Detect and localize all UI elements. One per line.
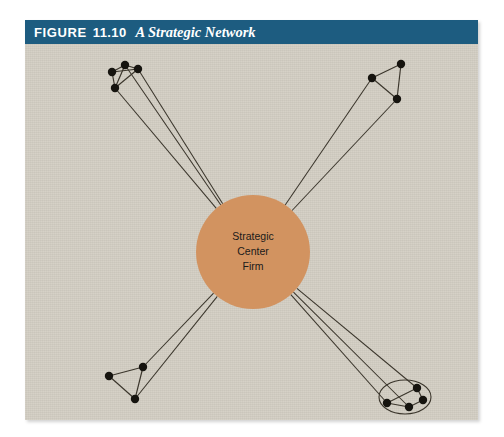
spoke-line (115, 88, 216, 208)
cluster-top-right (368, 60, 405, 103)
cluster-edge (372, 64, 401, 78)
network-node (368, 74, 376, 82)
network-node (139, 363, 147, 371)
spoke-line (125, 65, 221, 205)
cluster-edge (109, 367, 143, 376)
figure-label: FIGURE (34, 25, 87, 40)
cluster-edge (372, 78, 397, 99)
cluster-bottom-right (379, 380, 431, 414)
network-node (131, 395, 139, 403)
figure-number: 11.10 (93, 25, 127, 40)
spoke-line (291, 295, 387, 403)
spoke-line (293, 292, 409, 407)
network-node (105, 372, 113, 380)
network-node (111, 84, 119, 92)
network-diagram: StrategicCenterFirm (25, 44, 478, 420)
figure-panel: FIGURE 11.10 A Strategic Network Strateg… (25, 20, 478, 420)
network-node (393, 95, 401, 103)
cluster-top-left (108, 61, 142, 92)
network-node (134, 65, 142, 73)
figure-caption: A Strategic Network (136, 24, 256, 41)
cluster-edge (109, 376, 135, 399)
network-node (413, 384, 421, 392)
spoke-line (135, 296, 217, 399)
cluster-edge (397, 64, 401, 99)
spoke-line (292, 99, 397, 210)
spoke-line (143, 293, 214, 367)
network-node (108, 68, 116, 76)
figure-title-bar: FIGURE 11.10 A Strategic Network (25, 20, 478, 44)
network-node (405, 403, 413, 411)
spoke-line (138, 69, 223, 204)
spoke-line (285, 78, 372, 205)
cluster-bottom-left (105, 363, 147, 403)
center-label-line-3: Firm (243, 260, 264, 272)
spoke-line (297, 288, 417, 388)
network-node (383, 399, 391, 407)
network-node (397, 60, 405, 68)
center-label-line-2: Center (237, 245, 269, 257)
network-node (419, 396, 427, 404)
center-label-line-1: Strategic (232, 230, 273, 242)
network-node (121, 61, 129, 69)
